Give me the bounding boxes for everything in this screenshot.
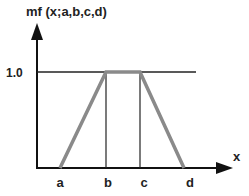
trapezoidal-membership-diagram: mf (x;a,b,c,d) x 1.0 a b c d (0, 0, 249, 196)
x-axis-label: x (233, 149, 241, 164)
point-label-c: c (140, 175, 147, 190)
point-label-b: b (104, 175, 112, 190)
point-label-d: d (186, 175, 194, 190)
y-tick-label: 1.0 (6, 66, 23, 80)
point-label-a: a (56, 175, 64, 190)
x-axis-arrow-icon (216, 162, 233, 174)
y-axis-arrow-icon (31, 23, 43, 40)
membership-function-curve (60, 72, 184, 168)
diagram-title: mf (x;a,b,c,d) (26, 4, 107, 19)
